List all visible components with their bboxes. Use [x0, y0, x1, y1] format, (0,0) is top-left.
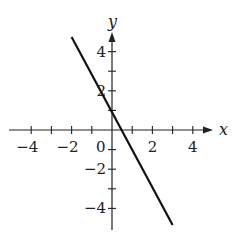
- x-tick-label: −2: [57, 138, 79, 156]
- y-axis: 42−2−4 y: [84, 12, 118, 230]
- plotted-line: [72, 37, 173, 225]
- y-axis-arrow-icon: [109, 32, 116, 42]
- x-tick-label: 2: [148, 138, 158, 156]
- x-tick-label: 0: [96, 138, 106, 156]
- y-tick-label: −2: [84, 160, 106, 178]
- y-tick-label: −4: [84, 199, 106, 217]
- x-tick-label: −4: [16, 138, 38, 156]
- x-axis-arrow-icon: [203, 127, 213, 134]
- x-axis-label: x: [219, 120, 228, 139]
- coordinate-plot: −4−2024 x 42−2−4 y: [0, 0, 234, 239]
- x-tick-label: 4: [188, 138, 198, 156]
- y-tick-label: 4: [96, 43, 106, 61]
- y-axis-label: y: [107, 12, 118, 31]
- x-tick-labels: −4−2024: [16, 138, 197, 156]
